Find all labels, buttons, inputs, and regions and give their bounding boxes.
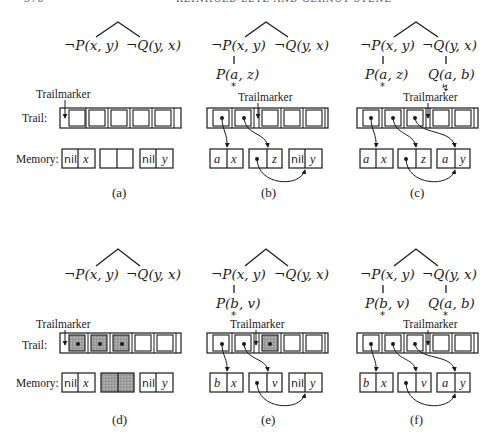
trailmarker-label: Trailmarker (36, 88, 91, 100)
memory-cells: nil x nil y (62, 373, 173, 392)
literal-negP: ¬P(x, y) (211, 266, 266, 282)
literal-negQ: ¬Q(y, x) (422, 37, 477, 53)
trail-array (207, 333, 328, 353)
literal-Pbv: P(b, v) (215, 295, 260, 311)
svg-text:a: a (214, 152, 220, 166)
svg-text:y: y (458, 376, 466, 390)
svg-text:z: z (420, 152, 426, 166)
caption-b: (b) (261, 185, 276, 200)
memory-cells: a x z nil y (210, 149, 322, 182)
svg-text:b: b (214, 376, 220, 390)
svg-text:y: y (308, 376, 316, 390)
svg-text:nil: nil (291, 377, 304, 390)
svg-text:nil: nil (142, 377, 155, 390)
trailmarker-label: Trailmarker (230, 318, 285, 330)
svg-text:a: a (363, 152, 369, 166)
svg-text:y: y (160, 152, 168, 166)
literal-negP: ¬P(x, y) (360, 37, 415, 53)
svg-text:x: x (380, 152, 387, 166)
literal-negP: ¬P(x, y) (211, 37, 266, 53)
trail-pointers (220, 342, 268, 371)
caption-d: (d) (112, 412, 127, 427)
svg-text:b: b (363, 376, 369, 390)
caption-f: (f) (410, 412, 423, 427)
panel-a: ¬P(x, y) ¬Q(y, x) Trailmarker Trail: Mem… (16, 22, 181, 200)
svg-text:v: v (272, 376, 278, 390)
panel-b: ¬P(x, y) ¬Q(y, x) P(a, z) * Trailmarker (207, 22, 329, 200)
literal-negQ: ¬Q(y, x) (274, 266, 329, 282)
trail-array (207, 108, 328, 128)
memory-cells: nil x nil y (62, 149, 173, 168)
svg-text:v: v (421, 376, 427, 390)
literal-Paz: P(a, z) (215, 66, 259, 82)
caption-a: (a) (112, 185, 126, 200)
panel-c: ¬P(x, y) ¬Q(y, x) P(a, z) * Q(a, b) ↯ Tr… (357, 22, 478, 200)
literal-Qab: Q(a, b) (428, 66, 475, 82)
svg-text:nil: nil (291, 153, 304, 166)
literal-negP: ¬P(x, y) (64, 37, 119, 53)
trail-array (60, 333, 181, 353)
trailmarker-label: Trailmarker (403, 91, 458, 103)
literal-negQ: ¬Q(y, x) (274, 37, 329, 53)
literal-Pbv: P(b, v) (364, 295, 409, 311)
trailmarker-label: Trailmarker (36, 318, 91, 330)
caption-c: (c) (410, 185, 424, 200)
svg-text:x: x (230, 152, 237, 166)
trail-pointers (220, 116, 268, 147)
trail-label: Trail: (22, 112, 47, 124)
trail-label: Trail: (22, 339, 47, 351)
literal-negQ: ¬Q(y, x) (126, 37, 181, 53)
svg-text:a: a (442, 376, 448, 390)
memory-label: Memory: (16, 377, 59, 390)
svg-text:y: y (458, 152, 466, 166)
svg-text:x: x (82, 376, 89, 390)
svg-text:a: a (442, 152, 448, 166)
panel-e: ¬P(x, y) ¬Q(y, x) P(b, v) * Trailmarker (207, 249, 329, 427)
trail-array (60, 108, 181, 128)
svg-text:x: x (82, 152, 89, 166)
caption-e: (e) (261, 412, 275, 427)
literal-Qab: Q(a, b) (428, 295, 475, 311)
literal-negQ: ¬Q(y, x) (422, 266, 477, 282)
tableau-branch (96, 22, 140, 37)
closed-star: * (380, 310, 385, 321)
closed-star: * (380, 81, 385, 92)
memory-cells: b x v nil y (210, 373, 322, 406)
panel-f: ¬P(x, y) ¬Q(y, x) P(b, v) * Q(a, b) * Tr… (357, 249, 478, 427)
trailmarker-label: Trailmarker (403, 318, 458, 330)
memory-cells: b x v a y (360, 373, 470, 406)
trailmarker-label: Trailmarker (238, 91, 293, 103)
literal-negP: ¬P(x, y) (64, 266, 119, 282)
literal-negQ: ¬Q(y, x) (126, 266, 181, 282)
svg-text:nil: nil (142, 153, 155, 166)
trail-array (357, 108, 478, 128)
literal-negP: ¬P(x, y) (360, 266, 415, 282)
memory-label: Memory: (16, 153, 59, 166)
literal-Paz: P(a, z) (364, 66, 408, 82)
svg-text:x: x (380, 376, 387, 390)
svg-text:nil: nil (64, 153, 77, 166)
svg-text:z: z (271, 152, 277, 166)
svg-text:x: x (230, 376, 237, 390)
closed-star: * (231, 81, 236, 92)
tableau-trail-diagram: ¬P(x, y) ¬Q(y, x) Trailmarker Trail: Mem… (0, 0, 496, 447)
svg-text:nil: nil (64, 377, 77, 390)
memory-cells: a x z a y (360, 149, 470, 182)
panel-d: ¬P(x, y) ¬Q(y, x) Trailmarker Trail: Mem… (16, 249, 181, 427)
svg-text:y: y (308, 152, 316, 166)
svg-text:y: y (160, 376, 168, 390)
